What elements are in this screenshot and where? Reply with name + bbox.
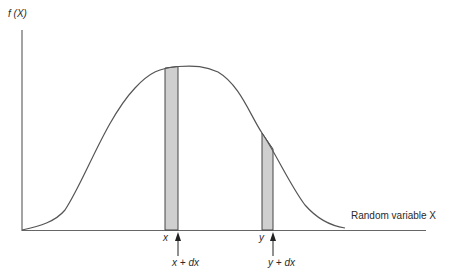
y-axis-label: f (X)	[8, 8, 27, 19]
arrow-up-icon	[270, 232, 276, 241]
probability-density-diagram	[0, 0, 449, 277]
density-curve	[22, 66, 345, 230]
strip-y-left-label: y	[259, 232, 264, 243]
strip-x-right-label: x + dx	[172, 257, 199, 268]
strip-x-left-label: x	[163, 232, 168, 243]
arrow-up-icon	[175, 232, 181, 241]
probability-strip-x	[165, 67, 178, 231]
strip-y-right-label: y + dx	[268, 257, 295, 268]
x-axis-label: Random variable X	[351, 210, 436, 221]
